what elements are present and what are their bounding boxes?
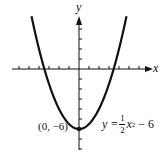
- vertex-point: [77, 127, 82, 132]
- equation-rest: − 6: [138, 117, 154, 132]
- x-axis-label: x: [153, 61, 158, 76]
- vertex-label: (0, −6): [38, 120, 68, 132]
- equation-lhs: y =: [102, 117, 118, 132]
- parabola-graph: y x (0, −6) y = 1 2 x2 − 6: [0, 0, 167, 152]
- y-axis-label: y: [76, 0, 81, 15]
- fraction-numerator: 1: [120, 114, 125, 123]
- equation-label: y = 1 2 x2 − 6: [102, 114, 154, 135]
- fraction-denominator: 2: [120, 126, 125, 135]
- equation-fraction: 1 2: [119, 114, 125, 135]
- equation-exponent: 2: [132, 121, 136, 129]
